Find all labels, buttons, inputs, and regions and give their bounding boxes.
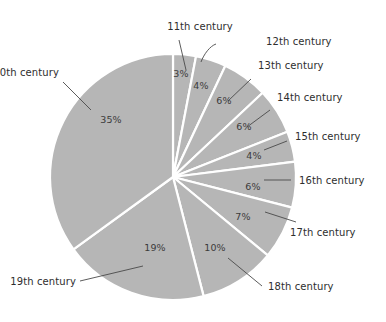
category-label-17th-century: 17th century: [290, 227, 356, 238]
percent-label-18th-century: 10%: [204, 242, 225, 253]
category-label-13th-century: 13th century: [258, 60, 324, 71]
percent-label-19th-century: 19%: [144, 242, 165, 253]
percent-label-15th-century: 4%: [246, 150, 261, 161]
category-label-16th-century: 16th century: [299, 175, 365, 186]
category-label-12th-century: 12th century: [266, 36, 332, 47]
category-label-19th-century: 19th century: [10, 276, 76, 287]
percent-label-11th-century: 3%: [173, 68, 188, 79]
percent-label-20th-century: 35%: [100, 114, 121, 125]
percent-label-13th-century: 6%: [216, 95, 231, 106]
pie-chart-figure: 3% 4% 6% 6% 4% 6% 7% 10% 19% 35% 11th ce…: [0, 0, 386, 322]
percent-label-14th-century: 6%: [236, 121, 251, 132]
percent-label-16th-century: 6%: [245, 181, 260, 192]
category-label-18th-century: 18th century: [268, 281, 334, 292]
category-label-11th-century: 11th century: [167, 21, 233, 32]
percent-label-17th-century: 7%: [235, 211, 250, 222]
pie-chart-canvas: 3% 4% 6% 6% 4% 6% 7% 10% 19% 35% 11th ce…: [0, 0, 386, 322]
percent-label-12th-century: 4%: [193, 80, 208, 91]
category-label-15th-century: 15th century: [295, 131, 361, 142]
category-label-14th-century: 14th century: [277, 92, 343, 103]
pie-slices-group: [50, 54, 296, 300]
category-label-20th-century: 20th century: [0, 67, 59, 78]
